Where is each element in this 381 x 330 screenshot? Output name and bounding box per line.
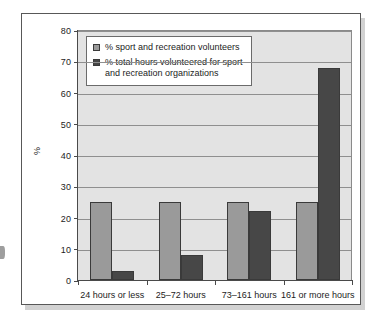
y-axis-tick: 40 [61, 151, 78, 161]
y-axis-tick-label: 40 [61, 151, 71, 161]
gridline [78, 94, 351, 95]
x-axis-tick-mark [284, 280, 285, 285]
legend-item: % sport and recreation volunteers [93, 42, 243, 53]
legend-swatch-icon [93, 44, 100, 51]
x-axis-tick-mark [352, 280, 353, 285]
y-axis-tick-mark [74, 218, 78, 219]
legend-item-label: % sport and recreation volunteers [105, 42, 240, 53]
x-axis-tick-mark [78, 280, 79, 285]
bar [112, 271, 134, 280]
y-axis-tick-mark [74, 156, 78, 157]
y-axis-tick-label: 20 [61, 214, 71, 224]
gridline [78, 62, 351, 63]
y-axis-tick: 80 [61, 26, 78, 36]
y-axis-tick-label: 70 [61, 57, 71, 67]
y-axis-tick: 70 [61, 57, 78, 67]
y-axis-tick-mark [74, 249, 78, 250]
x-axis-tick-mark [215, 280, 216, 285]
bar [249, 211, 271, 280]
y-axis-tick-label: 0 [66, 276, 71, 286]
x-axis-tick-mark [147, 280, 148, 285]
y-axis-tick: 60 [61, 89, 78, 99]
legend-item-label: % total hours volunteered for sport and … [105, 57, 243, 79]
y-axis-tick: 10 [61, 245, 78, 255]
bar [296, 202, 318, 280]
y-axis-tick: 50 [61, 120, 78, 130]
gridline [78, 187, 351, 188]
y-axis-tick: 20 [61, 214, 78, 224]
y-axis-tick-mark [74, 93, 78, 94]
gridline [78, 156, 351, 157]
bar [227, 202, 249, 280]
y-axis-tick-mark [74, 31, 78, 32]
y-axis-tick-mark [74, 62, 78, 63]
gridline [78, 31, 351, 32]
y-axis-tick-label: 30 [61, 182, 71, 192]
y-axis-tick-label: 80 [61, 26, 71, 36]
gridline [78, 125, 351, 126]
y-axis-tick-label: 10 [61, 245, 71, 255]
y-axis-tick-label: 50 [61, 120, 71, 130]
x-axis-category-label: 161 or more hours [273, 289, 363, 301]
plot-area: % sport and recreation volunteers% total… [78, 30, 352, 280]
bar [90, 202, 112, 280]
y-axis-title: % [32, 147, 42, 155]
y-axis-tick-label: 60 [61, 89, 71, 99]
legend-item: % total hours volunteered for sport and … [93, 57, 243, 79]
y-axis-tick-mark [74, 187, 78, 188]
y-axis-tick: 30 [61, 182, 78, 192]
clipped-page-fragment [0, 246, 5, 259]
bar [159, 202, 181, 280]
chart-figure-card: % % sport and recreation volunteers% tot… [21, 13, 361, 305]
chart-legend: % sport and recreation volunteers% total… [86, 36, 252, 86]
y-axis-tick: 0 [66, 276, 78, 286]
bar [318, 68, 340, 281]
y-axis-tick-mark [74, 124, 78, 125]
bar [181, 255, 203, 280]
